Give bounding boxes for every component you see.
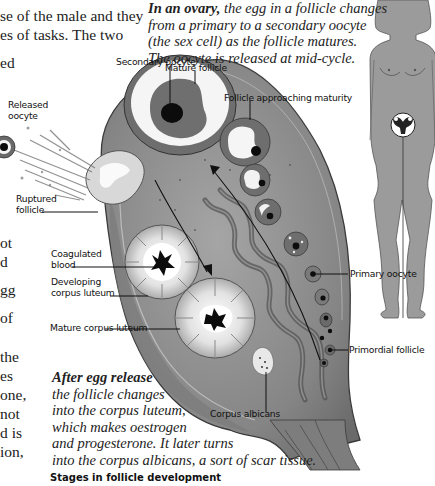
label-ruptured-follicle: Ruptured follicle [16, 193, 57, 215]
follicle-approaching-maturity [220, 118, 270, 166]
label-mature-corpus-luteum: Mature corpus luteum [50, 322, 147, 333]
section-heading: Stages in follicle development [50, 472, 221, 483]
after-release-caption-lead: After egg release [52, 369, 153, 385]
body-text-line: d is [0, 423, 22, 442]
label-mature-follicle: Mature follicle [165, 62, 227, 73]
body-text-line: se of the male and they [0, 6, 143, 25]
body-text-line: es [0, 366, 13, 385]
body-text-line: ed [0, 53, 15, 72]
body-text-line: of [0, 308, 13, 327]
body-text-line: one, [0, 385, 26, 404]
mature-corpus-luteum [175, 278, 255, 358]
label-developing-corpus-luteum: Developing corpus luteum [51, 276, 115, 298]
label-primordial-follicle: Primordial follicle [349, 344, 424, 355]
ovary-caption-lead: In an ovary, [148, 0, 220, 16]
label-coagulated-blood: Coagulated blood [51, 248, 102, 270]
body-text-line: not [0, 404, 20, 423]
label-follicle-approaching-maturity: Follicle approaching maturity [224, 92, 352, 103]
body-text-line: ion, [0, 442, 24, 461]
developing-corpus-luteum [125, 225, 199, 299]
body-text-line: es of tasks. The two [0, 25, 123, 44]
body-text-line: d [0, 252, 8, 271]
label-primary-oocyte: Primary oocyte [350, 268, 417, 279]
body-text-line: the [0, 347, 19, 366]
label-corpus-albicans: Corpus albicans [210, 408, 280, 419]
label-released-oocyte: Released oocyte [8, 99, 48, 121]
secondary-oocyte [161, 103, 183, 123]
body-text-line: ot [0, 233, 12, 252]
body-text-line: gg [0, 280, 16, 299]
